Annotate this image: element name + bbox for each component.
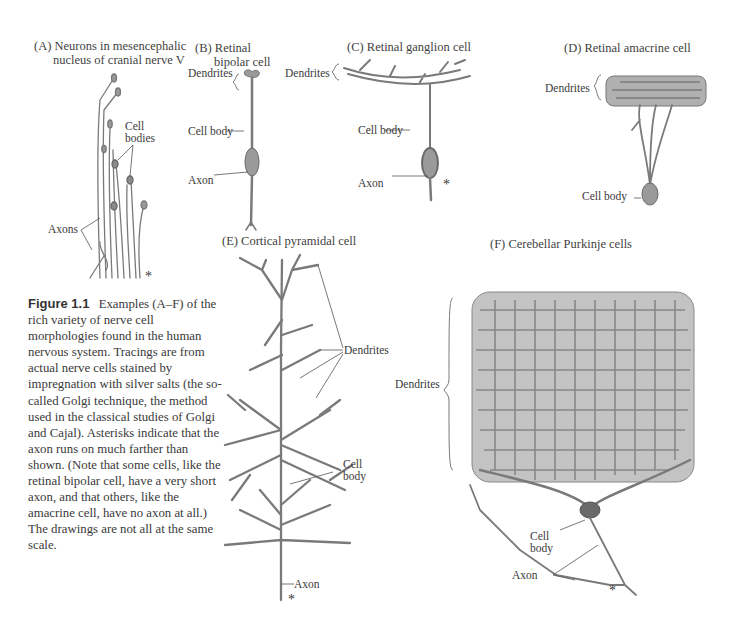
panel-e-dendrites-label: Dendrites bbox=[344, 344, 389, 357]
panel-a-cell-bodies-label: Cell bodies bbox=[125, 120, 155, 144]
panel-f-title: (F) Cerebellar Purkinje cells bbox=[490, 237, 632, 251]
panel-f-cell-body-label: Cell body bbox=[530, 530, 553, 554]
panel-c-axon-label: Axon bbox=[358, 177, 384, 190]
panel-f-dendrites-label: Dendrites bbox=[395, 378, 440, 391]
panel-d-drawing bbox=[594, 75, 706, 205]
panel-b-title: (B) Retinal bipolar cell bbox=[195, 41, 271, 69]
panel-c-asterisk: * bbox=[443, 178, 450, 191]
panel-c-dendrites-label: Dendrites bbox=[285, 67, 330, 80]
panel-e-drawing bbox=[225, 255, 352, 600]
panel-e-title: (E) Cortical pyramidal cell bbox=[222, 234, 356, 248]
panel-e-cell-label: Cell bbox=[343, 458, 366, 470]
panel-e-cell-body-label: Cell body bbox=[343, 458, 366, 482]
panel-f-axon-label: Axon bbox=[512, 569, 538, 582]
panel-b-dendrites-label: Dendrites bbox=[188, 67, 233, 80]
panel-a-bodies-label: bodies bbox=[125, 132, 155, 144]
panel-f-asterisk: * bbox=[609, 584, 616, 597]
figure-number: Figure 1.1 bbox=[28, 296, 89, 311]
figure-caption: Figure 1.1 Examples (A–F) of the rich va… bbox=[28, 296, 224, 554]
panel-d-cell-body-label: Cell body bbox=[582, 190, 627, 203]
panel-d-dendrites-label: Dendrites bbox=[545, 82, 590, 95]
panel-f-cell-label: Cell bbox=[530, 530, 553, 542]
panel-a-axons-label: Axons bbox=[48, 223, 78, 236]
panel-b-axon-label: Axon bbox=[188, 174, 214, 187]
panel-d-title: (D) Retinal amacrine cell bbox=[564, 41, 691, 55]
panel-b-drawing bbox=[214, 70, 259, 230]
figure-caption-text: Examples (A–F) of the rich variety of ne… bbox=[28, 297, 222, 552]
panel-e-axon-label: Axon bbox=[294, 578, 320, 591]
panel-a-cell-label: Cell bbox=[125, 120, 155, 132]
panel-a-title: (A) Neurons in mesencephalic nucleus of … bbox=[34, 39, 186, 67]
panel-f-body-label: body bbox=[530, 542, 553, 554]
panel-e-asterisk: * bbox=[288, 593, 295, 606]
panel-c-title: (C) Retinal ganglion cell bbox=[347, 40, 471, 54]
panel-b-title-line1: (B) Retinal bbox=[195, 41, 251, 55]
panel-b-cell-body-label: Cell body bbox=[188, 125, 233, 138]
panel-a-drawing bbox=[90, 74, 147, 278]
panel-c-cell-body-label: Cell body bbox=[358, 124, 403, 137]
panel-a-asterisk: * bbox=[145, 270, 152, 283]
panel-a-title-line1: (A) Neurons in mesencephalic bbox=[34, 39, 186, 53]
panel-e-body-label: body bbox=[343, 470, 366, 482]
panel-a-title-line2: nucleus of cranial nerve V bbox=[34, 53, 186, 67]
panel-f-drawing bbox=[444, 292, 694, 595]
